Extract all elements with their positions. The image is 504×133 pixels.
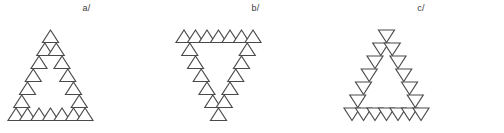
triangle-marker (211, 108, 227, 121)
triangle-marker (222, 82, 238, 95)
panel-b-canvas (168, 18, 336, 133)
triangle-marker (379, 30, 395, 43)
panel-b: b/ (168, 0, 336, 133)
triangle-marker (356, 82, 372, 95)
panel-c-label: c/ (336, 2, 504, 14)
triangle-marker (245, 30, 261, 43)
panel-c-canvas (336, 18, 504, 133)
triangle-marker (413, 108, 429, 121)
triangle-marker (71, 95, 87, 108)
triangle-marker (228, 69, 244, 82)
triangle-marker (367, 56, 383, 69)
triangle-marker (193, 69, 209, 82)
triangle-marker (396, 69, 412, 82)
triangle-marker (199, 82, 215, 95)
panel-b-label: b/ (168, 2, 336, 14)
triangle-marker (402, 82, 418, 95)
triangle-marker (390, 56, 406, 69)
panel-c: c/ (336, 0, 504, 133)
triangle-marker (216, 95, 232, 108)
panel-a-triangles (0, 18, 168, 133)
triangle-marker (54, 56, 70, 69)
triangle-marker (182, 43, 198, 56)
triangle-marker (31, 56, 47, 69)
triangle-marker (48, 43, 64, 56)
triangle-marker (43, 30, 59, 43)
triangle-marker (60, 69, 76, 82)
triangle-marker (14, 95, 30, 108)
triangle-marker (25, 69, 41, 82)
panel-c-triangles (336, 18, 504, 133)
triangle-marker (20, 82, 36, 95)
triangle-marker (350, 95, 366, 108)
triangle-marker (234, 56, 250, 69)
triangle-marker (66, 82, 82, 95)
triangle-marker (384, 43, 400, 56)
figure-three-triangle-panels: a/ b/ c/ (0, 0, 504, 133)
triangle-marker (239, 43, 255, 56)
panel-a-label: a/ (0, 2, 168, 14)
triangle-marker (188, 56, 204, 69)
panel-a-canvas (0, 18, 168, 133)
triangle-marker (407, 95, 423, 108)
triangle-marker (77, 108, 93, 121)
panel-b-triangles (168, 18, 336, 133)
panel-a: a/ (0, 0, 168, 133)
triangle-marker (361, 69, 377, 82)
